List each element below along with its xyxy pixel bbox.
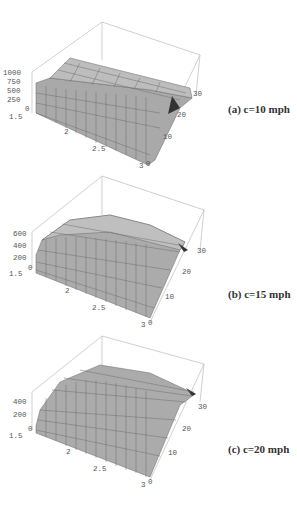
surface-plot-b: 600 400 200 0 1.5 2 2.5 3 0 10 20 30 (0, 170, 230, 335)
svg-text:0: 0 (25, 105, 30, 113)
svg-text:20: 20 (182, 425, 192, 433)
svg-text:0: 0 (28, 425, 33, 433)
surface-mesh (36, 365, 196, 477)
svg-text:10: 10 (168, 449, 178, 457)
z-axis-ticks: 600 400 200 0 (13, 230, 33, 272)
svg-text:30: 30 (197, 247, 207, 255)
svg-text:1.5: 1.5 (9, 270, 23, 278)
caption-b: (b) c=15 mph (228, 288, 291, 300)
svg-text:250: 250 (7, 96, 21, 104)
svg-text:400: 400 (13, 242, 27, 250)
svg-text:20: 20 (177, 111, 187, 119)
svg-text:2: 2 (64, 128, 69, 136)
caption-a: (a) c=10 mph (228, 103, 290, 115)
svg-text:2.5: 2.5 (92, 145, 106, 153)
svg-text:200: 200 (13, 411, 27, 419)
svg-text:0: 0 (146, 160, 151, 168)
svg-text:500: 500 (7, 87, 21, 95)
svg-text:0: 0 (148, 319, 153, 327)
svg-text:2.5: 2.5 (93, 465, 107, 473)
surface-plot-c: 400 200 0 1.5 2 2.5 3 0 10 20 30 (0, 330, 230, 505)
svg-text:10: 10 (163, 133, 173, 141)
svg-text:1.5: 1.5 (9, 432, 23, 440)
svg-text:3: 3 (141, 481, 146, 489)
svg-text:2.5: 2.5 (92, 304, 106, 312)
panel-b: 600 400 200 0 1.5 2 2.5 3 0 10 20 30 (b)… (0, 170, 297, 330)
svg-text:0: 0 (148, 478, 153, 486)
svg-text:30: 30 (198, 403, 208, 411)
svg-text:10: 10 (165, 293, 175, 301)
svg-text:2: 2 (65, 287, 70, 295)
svg-text:3: 3 (141, 321, 146, 329)
surface-plot-a: 1000 750 500 250 0 1.5 2 2.5 3 0 10 20 3… (0, 0, 230, 170)
svg-text:750: 750 (7, 78, 21, 86)
svg-text:20: 20 (182, 268, 192, 276)
svg-text:2: 2 (66, 448, 71, 456)
surface-mesh (36, 215, 188, 318)
caption-c: (c) c=20 mph (228, 443, 289, 455)
z-axis-ticks: 400 200 0 (13, 398, 33, 433)
z-axis-ticks: 1000 750 500 250 0 (3, 69, 30, 113)
svg-text:400: 400 (13, 398, 27, 406)
svg-text:0: 0 (28, 264, 33, 272)
panel-a: 1000 750 500 250 0 1.5 2 2.5 3 0 10 20 3… (0, 0, 297, 170)
svg-text:1000: 1000 (3, 69, 22, 77)
svg-text:200: 200 (13, 254, 27, 262)
svg-text:1.5: 1.5 (9, 113, 23, 121)
svg-text:3: 3 (139, 162, 144, 170)
surface-mesh (36, 58, 192, 165)
svg-text:600: 600 (13, 230, 27, 238)
svg-text:30: 30 (193, 90, 203, 98)
panel-c: 400 200 0 1.5 2 2.5 3 0 10 20 30 (c) c=2… (0, 330, 297, 505)
